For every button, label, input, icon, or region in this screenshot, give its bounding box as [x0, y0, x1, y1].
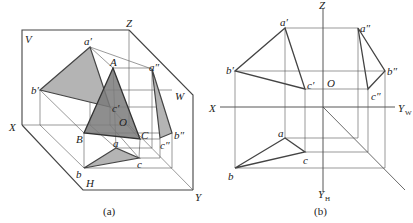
svg-text:H: H	[325, 195, 330, 203]
label-c-prime-b: c′	[307, 79, 315, 91]
three-view-projection-diagram: V W H Z X Y O a′ b′ c′ A B C a″ b″ c″ a …	[0, 0, 413, 223]
label-a-dprime: a″	[149, 61, 160, 73]
label-yw-axis: Y W	[398, 102, 412, 117]
label-c: c	[137, 158, 142, 170]
caption-b: (b)	[314, 205, 327, 218]
label-z-axis: Z	[126, 17, 133, 29]
label-c-dprime: c″	[160, 139, 170, 151]
label-b-prime: b′	[31, 84, 40, 96]
label-a-dprime-b: a″	[360, 22, 371, 34]
caption-a: (a)	[103, 205, 116, 218]
label-A: A	[109, 56, 117, 68]
side-view-triangle	[358, 28, 385, 89]
w-projection-triangle	[152, 69, 172, 138]
label-y-axis: Y	[195, 191, 203, 203]
label-x-axis-b: X	[208, 102, 217, 114]
label-b-dprime-b: b″	[387, 65, 398, 77]
svg-text:W: W	[405, 109, 412, 117]
label-z-axis-b: Z	[319, 0, 326, 11]
label-w-plane: W	[175, 90, 185, 102]
h-projection-triangle	[84, 148, 139, 168]
label-a-b: a	[278, 127, 284, 139]
label-h-plane: H	[85, 177, 95, 189]
label-c-prime: c′	[112, 102, 120, 114]
label-x-axis: X	[8, 121, 17, 133]
label-C: C	[141, 129, 149, 141]
label-a-prime: a′	[84, 35, 93, 47]
label-a-prime-b: a′	[280, 16, 289, 28]
top-view-triangle	[235, 138, 305, 168]
label-c-dprime-b: c″	[371, 90, 381, 102]
label-c-b: c	[303, 154, 308, 166]
figure-b-orthographic: Z X O Y W Y H a′ b′ c′ a″ b″ c″ a b c (b…	[208, 0, 412, 218]
label-origin-b: O	[327, 77, 335, 89]
label-origin: O	[119, 116, 127, 128]
label-v-plane: V	[25, 33, 33, 45]
label-b-b: b	[228, 170, 234, 182]
label-b-dprime: b″	[174, 129, 185, 141]
front-view-triangle	[235, 28, 305, 89]
45-degree-line	[323, 107, 405, 190]
figure-a-pictorial: V W H Z X Y O a′ b′ c′ A B C a″ b″ c″ a …	[8, 17, 203, 218]
label-yh-axis: Y H	[318, 188, 330, 203]
label-b-prime-b: b′	[226, 64, 235, 76]
label-b: b	[76, 168, 82, 180]
label-B: B	[76, 133, 83, 145]
label-a: a	[113, 137, 119, 149]
